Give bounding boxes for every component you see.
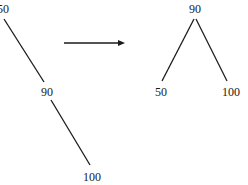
node-before-50: 50 xyxy=(0,3,9,15)
edge-after-90-50 xyxy=(162,19,194,81)
diagram-canvas xyxy=(0,0,248,185)
edge-after-90-100 xyxy=(196,19,227,81)
edge-before-90-100 xyxy=(51,100,90,165)
node-before-100: 100 xyxy=(83,171,101,183)
arrow-head-icon xyxy=(118,40,125,46)
node-after-50: 50 xyxy=(155,86,167,98)
node-after-90: 90 xyxy=(189,3,201,15)
node-after-100: 100 xyxy=(222,86,240,98)
edge-before-50-90 xyxy=(4,19,44,82)
node-before-90: 90 xyxy=(41,86,53,98)
